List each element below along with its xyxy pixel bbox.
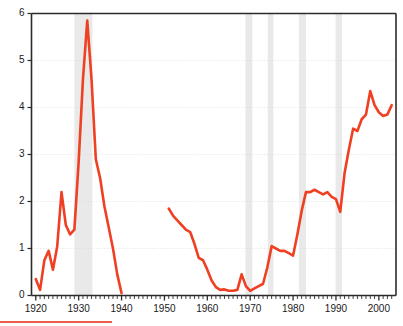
line-chart: 0123456 19201930194019501960197019801990… [0, 0, 403, 326]
y-tick-label-6: 6 [19, 7, 25, 18]
y-tick-label-5: 5 [19, 54, 25, 65]
band-1969-1970 [245, 14, 252, 296]
y-tick-label-2: 2 [19, 195, 25, 206]
x-tick-label-1930: 1930 [68, 303, 91, 314]
x-tick-label-1990: 1990 [325, 303, 348, 314]
y-tick-label-1: 1 [19, 242, 25, 253]
band-1981-1983 [299, 14, 306, 296]
x-tick-label-1920: 1920 [25, 303, 48, 314]
x-axis [32, 296, 397, 301]
band-1990-1991 [336, 14, 342, 296]
y-tick-labels: 0123456 [19, 7, 25, 300]
x-tick-label-1970: 1970 [239, 303, 262, 314]
chart-container: 0123456 19201930194019501960197019801990… [0, 0, 403, 326]
y-tick-label-4: 4 [19, 101, 25, 112]
x-tick-label-1960: 1960 [196, 303, 219, 314]
x-tick-label-2000: 2000 [368, 303, 391, 314]
x-tick-labels: 192019301940195019601970198019902000 [25, 303, 391, 314]
y-tick-label-0: 0 [19, 289, 25, 300]
series-line-series-2 [169, 91, 392, 291]
y-tick-label-3: 3 [19, 148, 25, 159]
y-axis [28, 14, 32, 296]
x-tick-label-1980: 1980 [282, 303, 305, 314]
x-tick-label-1950: 1950 [153, 303, 176, 314]
bottom-accent-rule [0, 321, 112, 323]
x-tick-label-1940: 1940 [110, 303, 133, 314]
